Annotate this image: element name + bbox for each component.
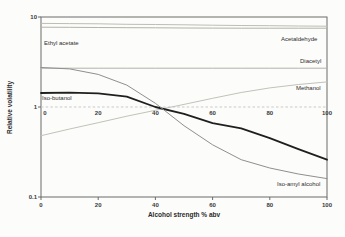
series-line-iso-amyl-alcohol: [41, 68, 327, 179]
x-axis-inner-tick-label: 0: [43, 110, 46, 116]
x-axis-tick-label: 0: [39, 202, 42, 208]
x-axis-tick-label: 40: [152, 202, 159, 208]
series-label-iso-amyl-alcohol: Iso-amyl alcohol: [277, 181, 320, 187]
x-axis-inner-tick-label: 60: [209, 110, 216, 116]
x-axis-tick-label: 20: [95, 202, 102, 208]
series-label-diacetyl: Diacetyl: [300, 58, 321, 64]
y-axis-tick-label: 1: [34, 104, 37, 110]
y-axis-tick-label: 10: [30, 14, 37, 20]
series-label-acetaldehyde: Acetaldehyde: [281, 36, 317, 42]
y-axis-title: Relative volatility: [6, 81, 13, 134]
x-axis-inner-tick-label: 20: [95, 110, 102, 116]
y-axis-tick-label: 0.1: [29, 194, 37, 200]
x-axis-tick-label: 60: [209, 202, 216, 208]
x-axis-tick-label: 100: [322, 202, 332, 208]
x-axis-inner-tick-label: 80: [266, 110, 273, 116]
series-label-iso-butanol: Iso-butanol: [42, 95, 72, 101]
series-line-methanol: [41, 82, 327, 136]
series-label-methanol: Methanol: [296, 85, 321, 91]
series-label-ethyl-acetate: Ethyl acetate: [44, 40, 79, 46]
series-line-ethyl-acetate: [41, 23, 327, 26]
series-line-acetaldehyde: [41, 27, 327, 28]
x-axis-inner-tick-label: 100: [322, 110, 332, 116]
x-axis-title: Alcohol strength % abv: [148, 211, 220, 218]
congener-volatility-chart: Ethyl acetateAcetaldehydeDiacetylMethano…: [0, 0, 345, 237]
x-axis-inner-tick-label: 40: [152, 110, 159, 116]
x-axis-tick-label: 80: [266, 202, 273, 208]
